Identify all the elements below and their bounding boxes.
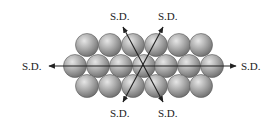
slip-direction-diagram: S.D. S.D. S.D. S.D. S.D. S.D. xyxy=(0,0,279,127)
atom-sphere xyxy=(168,34,191,57)
atom-sphere xyxy=(145,75,168,98)
label-top-left: S.D. xyxy=(110,10,130,22)
label-bottom-left: S.D. xyxy=(110,107,130,119)
label-bottom-right: S.D. xyxy=(158,107,178,119)
label-left: S.D. xyxy=(22,60,42,72)
atom-sphere xyxy=(190,34,213,57)
label-right: S.D. xyxy=(241,60,261,72)
atom-sphere xyxy=(99,75,122,98)
atom-sphere xyxy=(76,75,99,98)
label-top-right: S.D. xyxy=(158,10,178,22)
atom-sphere xyxy=(168,75,191,98)
atom-sphere xyxy=(99,34,122,57)
atom-sphere xyxy=(190,75,213,98)
atom-sphere xyxy=(145,34,168,57)
atom-sphere xyxy=(76,34,99,57)
atom-sphere xyxy=(122,75,145,98)
